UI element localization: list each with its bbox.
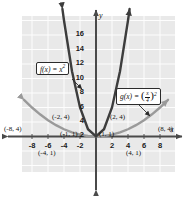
callout-fx-close-paren: ) xyxy=(48,65,51,74)
x-tick-label-neg8: -8 xyxy=(29,142,36,150)
callout-gx: g(x) = (x4)2 xyxy=(116,88,161,105)
point-label-neg4-1: (-4, 1) xyxy=(38,150,56,157)
point-label-8-4: (8, 4) xyxy=(158,126,173,133)
coordinate-plane xyxy=(0,0,190,198)
callout-gx-bracket-open: ( xyxy=(141,89,145,101)
graph-figure: 16 14 12 10 8 6 4 2 -8 -6 -4 -2 2 4 6 8 … xyxy=(0,0,190,198)
y-axis-name: y xyxy=(99,12,103,20)
y-tick-label-6: 6 xyxy=(80,103,84,111)
x-tick-label-8: 8 xyxy=(158,142,162,150)
x-tick-label-2: 2 xyxy=(110,142,114,150)
x-tick-label-neg4: -4 xyxy=(61,142,68,150)
y-tick-label-10: 10 xyxy=(76,74,84,82)
callout-gx-close-paren: ) xyxy=(130,92,133,101)
x-tick-label-neg2: -2 xyxy=(77,142,84,150)
callout-gx-equals: = xyxy=(134,92,139,101)
point-label-neg1-1: (-1, 1) xyxy=(60,131,78,138)
point-label-neg2-4: (-2, 4) xyxy=(52,114,70,121)
callout-fx: f(x) = x2 xyxy=(36,62,69,75)
y-tick-label-2: 2 xyxy=(80,131,84,139)
y-tick-label-8: 8 xyxy=(80,88,84,96)
y-tick-label-14: 14 xyxy=(76,45,84,53)
point-label-2-4: (2, 4) xyxy=(110,114,125,121)
y-tick-label-16: 16 xyxy=(76,30,84,38)
x-tick-label-6: 6 xyxy=(142,142,146,150)
point-label-neg8-4: (-8, 4) xyxy=(4,126,22,133)
point-label-1-1: (1, 1) xyxy=(99,131,114,138)
callout-fx-exponent: 2 xyxy=(63,63,66,69)
point-label-4-1: (4, 1) xyxy=(126,150,141,157)
y-tick-label-12: 12 xyxy=(76,59,84,67)
callout-gx-exponent: 2 xyxy=(154,91,157,97)
callout-fx-equals: = xyxy=(52,65,57,74)
y-tick-label-4: 4 xyxy=(80,117,84,125)
